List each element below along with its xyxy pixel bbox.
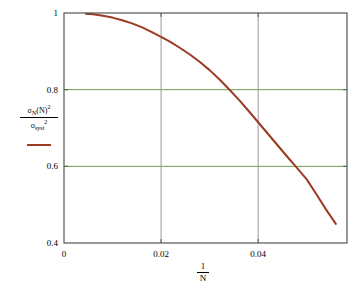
y-den-sup: 2: [44, 119, 47, 125]
x-axis-label: 1 N: [190, 262, 216, 283]
chart-figure: 0.40.60.81 00.020.04 σN(N)2 σsyst2 1 N: [0, 0, 360, 298]
x-tick-label: 0: [62, 249, 67, 259]
y-axis-label: σN(N)2 σsyst2: [14, 104, 64, 132]
y-tick-label: 0.6: [47, 161, 59, 171]
y-tick-label: 1: [54, 8, 59, 18]
x-tick-labels: 00.020.04: [62, 249, 267, 259]
y-num-sup: 2: [47, 104, 50, 110]
x-axis-label-denominator: N: [190, 274, 216, 283]
plot-background: [64, 13, 347, 243]
y-tick-label: 0.4: [47, 238, 59, 248]
series-color-swatch: [27, 144, 51, 146]
plot-canvas: 0.40.60.81 00.020.04: [0, 0, 360, 298]
x-tick-label: 0.04: [250, 249, 266, 259]
y-axis-label-denominator: σsyst2: [14, 118, 64, 131]
y-tick-label: 0.8: [47, 85, 59, 95]
x-tick-label: 0.02: [153, 249, 169, 259]
y-den-sub: syst: [35, 126, 44, 132]
y-axis-label-numerator: σN(N)2: [14, 104, 64, 117]
y-num-arg: (N): [36, 106, 47, 115]
x-axis-label-numerator: 1: [190, 262, 216, 271]
